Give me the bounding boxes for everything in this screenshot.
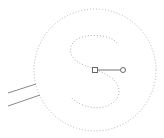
drawing-canvas[interactable]: [0, 0, 164, 138]
control-handle-circle-icon[interactable]: [121, 68, 126, 73]
anchor-node-square-icon[interactable]: [93, 68, 98, 73]
canvas-background: [0, 0, 164, 138]
